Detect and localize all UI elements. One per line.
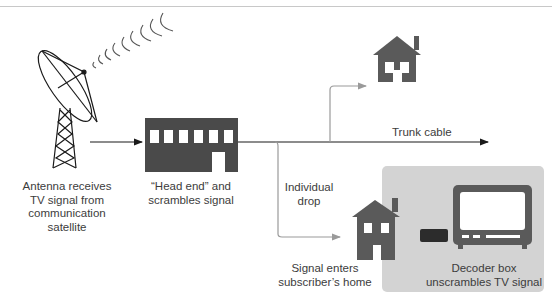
- head-end-label-line: scrambles signal: [136, 194, 246, 208]
- antenna-label-line: satellite: [8, 221, 126, 235]
- diagram-canvas: [0, 0, 559, 300]
- house-icon: [373, 36, 421, 82]
- drop-label-line: drop: [278, 195, 340, 209]
- antenna-label: Antenna receives TV signal from communic…: [8, 180, 126, 234]
- home-label-line: Signal enters: [270, 262, 380, 276]
- signal-waves-icon: [93, 13, 173, 68]
- antenna-label-line: communication: [8, 207, 126, 221]
- decoder-label-line: unscrambles TV signal: [410, 276, 558, 290]
- head-end-building-icon: [145, 118, 238, 172]
- antenna-label-line: TV signal from: [8, 194, 126, 208]
- trunk-cable-label: Trunk cable: [392, 126, 452, 140]
- individual-drop-label: Individual drop: [278, 181, 340, 208]
- satellite-antenna-icon: [29, 44, 100, 168]
- drop-label-line: Individual: [278, 181, 340, 195]
- home-label-line: subscriber’s home: [270, 276, 380, 290]
- branch-to-upper-house-line: [330, 86, 366, 142]
- decoder-box-icon: [420, 229, 448, 242]
- television-icon: [453, 185, 532, 249]
- head-end-label: “Head end” and scrambles signal: [136, 180, 246, 207]
- antenna-label-line: Antenna receives: [8, 180, 126, 194]
- decoder-label-line: Decoder box: [410, 262, 558, 276]
- decoder-label: Decoder box unscrambles TV signal: [410, 262, 558, 289]
- subscriber-home-label: Signal enters subscriber’s home: [270, 262, 380, 289]
- head-end-label-line: “Head end” and: [136, 180, 246, 194]
- subscriber-house-icon: [352, 198, 400, 260]
